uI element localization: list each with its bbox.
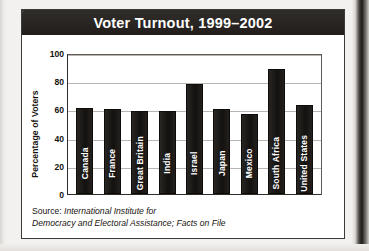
bar-label: Japan (218, 150, 227, 176)
chart-title: Voter Turnout, 1999–2002 (93, 15, 272, 31)
bar: India (159, 111, 176, 194)
bar-label: United States (300, 134, 309, 191)
bar-series: CanadaFranceGreat BritainIndiaIsraelJapa… (68, 55, 321, 194)
bar: Mexico (241, 114, 258, 194)
bar: Japan (213, 109, 230, 194)
page-canvas: Voter Turnout, 1999–2002 Percentage of V… (0, 0, 369, 251)
bar: Canada (76, 108, 93, 194)
y-axis-title-label: Percentage of Voters (30, 90, 40, 177)
bar: France (104, 109, 121, 194)
bar-label: Canada (80, 147, 89, 179)
bar: South Africa (268, 69, 285, 194)
page-left-edge-shadow (0, 0, 6, 251)
y-tick-label: 0 (42, 191, 64, 200)
chart-card: Voter Turnout, 1999–2002 Percentage of V… (21, 9, 345, 239)
y-tick-label: 20 (42, 163, 64, 172)
bar: Israel (186, 84, 203, 194)
y-tick-label: 40 (42, 134, 64, 143)
bar-label: India (163, 152, 172, 173)
bar-label: Israel (190, 151, 199, 174)
plot-wrapper: Percentage of Voters 020406080100 Canada… (22, 35, 344, 240)
y-tick-label: 80 (42, 78, 64, 87)
bar-label: Mexico (245, 148, 254, 178)
source-body-line-1: International Institute for (64, 206, 156, 216)
bar-label: France (108, 148, 117, 177)
bar: Great Britain (131, 111, 148, 194)
bar: United States (296, 105, 313, 194)
bar-label: South Africa (273, 136, 282, 189)
source-note: Source: International Institute for Demo… (32, 205, 322, 229)
y-tick-label: 60 (42, 106, 64, 115)
plot-area: CanadaFranceGreat BritainIndiaIsraelJapa… (67, 54, 322, 195)
page-bottom-edge-shadow (0, 244, 369, 251)
page-right-edge-shadow (352, 0, 369, 251)
chart-title-bar: Voter Turnout, 1999–2002 (22, 10, 344, 35)
source-label: Source: (32, 206, 62, 216)
bar-label: Great Britain (135, 136, 144, 190)
source-body-line-2: Democracy and Electoral Assistance; Fact… (32, 218, 226, 228)
y-tick-label: 100 (42, 50, 64, 59)
